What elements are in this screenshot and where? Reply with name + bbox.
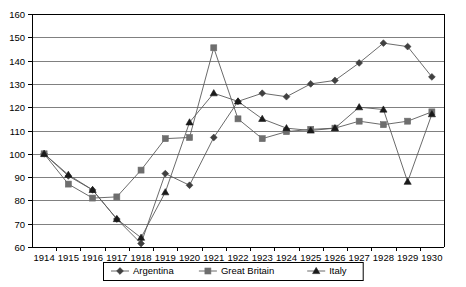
- chart-legend: ArgentinaGreat BritainItaly: [104, 263, 364, 281]
- y-tick-label: 80: [14, 195, 25, 206]
- x-tick-label: 1925: [300, 252, 321, 263]
- x-tick-label: 1921: [203, 252, 224, 263]
- x-tick-label: 1918: [130, 252, 151, 263]
- x-tick-label: 1915: [58, 252, 79, 263]
- data-point: [162, 136, 168, 142]
- x-tick-label: 1924: [276, 252, 297, 263]
- x-axis-ticks: 1914191519161917191819191920192119221923…: [34, 247, 443, 263]
- y-tick-label: 160: [9, 9, 25, 20]
- x-tick-label: 1928: [373, 252, 394, 263]
- x-tick-label: 1923: [252, 252, 273, 263]
- y-tick-label: 70: [14, 219, 25, 230]
- x-tick-label: 1929: [397, 252, 418, 263]
- data-point: [235, 116, 241, 122]
- y-axis-ticks: 60708090100110120130140150160: [9, 9, 32, 253]
- x-tick-label: 1920: [179, 252, 200, 263]
- data-point: [138, 167, 144, 173]
- plot-area-background: [32, 14, 444, 247]
- chart-canvas: 60708090100110120130140150160 1914191519…: [0, 0, 466, 287]
- data-point: [356, 118, 362, 124]
- data-point: [187, 134, 193, 140]
- y-tick-label: 130: [9, 79, 25, 90]
- data-point: [405, 118, 411, 124]
- data-point: [114, 194, 120, 200]
- data-point: [90, 195, 96, 201]
- legend-label: Great Britain: [221, 265, 274, 276]
- y-tick-label: 100: [9, 149, 25, 160]
- data-point: [211, 45, 217, 51]
- legend-label: Italy: [329, 265, 347, 276]
- legend-marker-square: [205, 268, 211, 274]
- y-tick-label: 120: [9, 102, 25, 113]
- x-tick-label: 1916: [82, 252, 103, 263]
- legend-label: Argentina: [133, 265, 174, 276]
- data-point: [259, 136, 265, 142]
- x-tick-label: 1930: [421, 252, 442, 263]
- x-tick-label: 1919: [155, 252, 176, 263]
- y-tick-label: 140: [9, 56, 25, 67]
- y-tick-label: 60: [14, 242, 25, 253]
- x-tick-label: 1922: [227, 252, 248, 263]
- x-tick-label: 1917: [106, 252, 127, 263]
- x-tick-label: 1914: [34, 252, 55, 263]
- y-tick-label: 90: [14, 172, 25, 183]
- y-tick-label: 150: [9, 32, 25, 43]
- data-point: [65, 181, 71, 187]
- x-tick-label: 1926: [324, 252, 345, 263]
- data-point: [380, 122, 386, 128]
- y-tick-label: 110: [10, 126, 25, 137]
- x-tick-label: 1927: [349, 252, 370, 263]
- line-chart: 60708090100110120130140150160 1914191519…: [0, 0, 466, 287]
